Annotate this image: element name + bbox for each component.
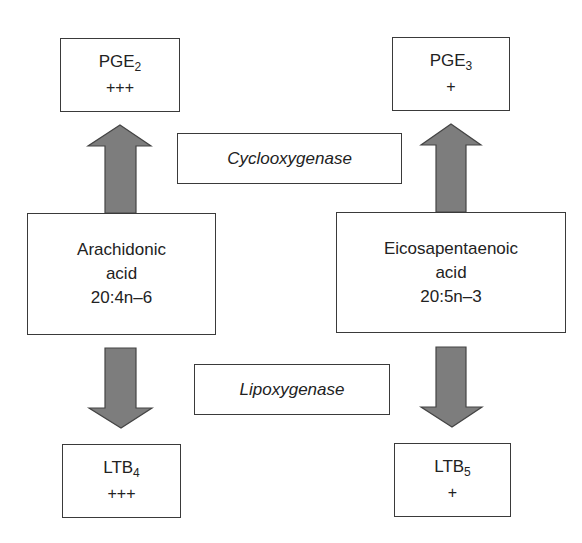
product-box-pge3: PGE3 +	[392, 37, 510, 111]
substrate-formula: 20:4n–6	[91, 286, 152, 310]
product-level-pge2: +++	[106, 77, 134, 99]
substrate-box-eicosapentaenoic-acid: Eicosapentaenoic acid 20:5n–3	[336, 212, 566, 333]
product-level-ltb5: +	[448, 482, 457, 504]
substrate-name-line2: acid	[106, 262, 137, 286]
arrow-down-eicosapentaenoic-to-ltb5	[421, 347, 482, 427]
arrow-down-arachidonic-to-ltb4	[89, 348, 152, 428]
product-box-ltb4: LTB4 +++	[62, 444, 181, 518]
product-name-ltb5: LTB5	[434, 456, 471, 478]
product-name-ltb4: LTB4	[103, 457, 140, 479]
product-level-ltb4: +++	[107, 483, 135, 505]
enzyme-box-lipoxygenase: Lipoxygenase	[194, 364, 390, 415]
arrow-up-arachidonic-to-pge2	[88, 125, 151, 213]
arrow-up-eicosapentaenoic-to-pge3	[421, 124, 481, 212]
substrate-name-line1: Eicosapentaenoic	[384, 237, 518, 261]
enzyme-label-lipoxygenase: Lipoxygenase	[240, 380, 345, 400]
product-box-ltb5: LTB5 +	[394, 443, 511, 517]
substrate-name-line1: Arachidonic	[77, 238, 166, 262]
substrate-box-arachidonic-acid: Arachidonic acid 20:4n–6	[27, 213, 216, 335]
enzyme-label-cyclooxygenase: Cyclooxygenase	[227, 149, 352, 169]
product-level-pge3: +	[446, 76, 455, 98]
substrate-name-line2: acid	[435, 261, 466, 285]
product-box-pge2: PGE2 +++	[60, 38, 180, 112]
product-name-pge2: PGE2	[99, 51, 142, 73]
substrate-formula: 20:5n–3	[420, 285, 481, 309]
product-name-pge3: PGE3	[430, 50, 473, 72]
enzyme-box-cyclooxygenase: Cyclooxygenase	[177, 133, 402, 184]
